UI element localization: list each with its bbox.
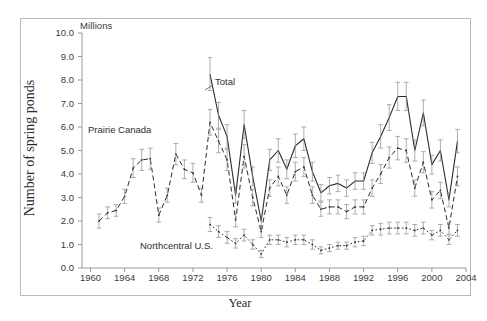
data-point	[141, 159, 143, 161]
data-point	[448, 239, 450, 241]
data-point	[388, 227, 390, 229]
data-point	[397, 227, 399, 229]
data-point	[363, 206, 365, 208]
data-point	[431, 234, 433, 236]
data-point	[388, 157, 390, 159]
data-point	[209, 121, 211, 123]
data-point	[235, 242, 237, 244]
data-point	[192, 172, 194, 174]
data-point	[243, 155, 245, 157]
data-point	[166, 194, 168, 196]
series-label-total: Total	[215, 76, 235, 87]
series-label-prairie-canada: Prairie Canada	[88, 124, 151, 135]
data-point	[337, 206, 339, 208]
data-point	[149, 158, 151, 160]
data-point	[457, 230, 459, 232]
data-point	[371, 187, 373, 189]
data-point	[115, 210, 117, 212]
data-point	[431, 199, 433, 201]
data-point	[320, 249, 322, 251]
data-point	[277, 239, 279, 241]
data-point	[201, 194, 203, 196]
data-point	[303, 166, 305, 168]
figure-container: Millions Number of spring ponds Year 0.0…	[0, 0, 487, 321]
series-total	[208, 58, 460, 228]
data-point	[252, 197, 254, 199]
data-point	[346, 211, 348, 213]
data-point	[184, 168, 186, 170]
data-point	[98, 220, 100, 222]
data-point	[329, 206, 331, 208]
data-point	[158, 214, 160, 216]
data-point	[175, 153, 177, 155]
data-point	[132, 167, 134, 169]
data-point	[226, 237, 228, 239]
data-point	[107, 212, 109, 214]
data-point	[440, 190, 442, 192]
data-point	[457, 175, 459, 177]
data-point	[414, 230, 416, 232]
data-point	[422, 161, 424, 163]
data-point	[354, 206, 356, 208]
data-point	[371, 230, 373, 232]
series-line	[210, 74, 457, 221]
data-point	[235, 219, 237, 221]
data-point	[260, 231, 262, 233]
data-point	[294, 171, 296, 173]
data-point	[320, 208, 322, 210]
data-point	[363, 240, 365, 242]
data-point	[346, 245, 348, 247]
data-point	[312, 244, 314, 246]
data-point	[286, 241, 288, 243]
data-point	[218, 231, 220, 233]
series-label-northcentral-us: Northcentral U.S.	[140, 240, 213, 251]
data-point	[269, 239, 271, 241]
data-point	[294, 239, 296, 241]
data-point	[124, 195, 126, 197]
series-line	[210, 225, 457, 254]
data-point	[354, 241, 356, 243]
data-point	[380, 228, 382, 230]
data-point	[218, 140, 220, 142]
data-point	[252, 244, 254, 246]
data-point	[414, 187, 416, 189]
chart-plot-area	[0, 0, 487, 321]
data-point	[422, 227, 424, 229]
data-point	[269, 187, 271, 189]
data-point	[226, 159, 228, 161]
data-point	[243, 234, 245, 236]
data-point	[286, 194, 288, 196]
data-point	[440, 230, 442, 232]
data-point	[260, 253, 262, 255]
data-point	[209, 224, 211, 226]
data-point	[329, 247, 331, 249]
data-point	[312, 194, 314, 196]
data-point	[303, 239, 305, 241]
total-leader-line	[205, 85, 213, 90]
data-point	[277, 175, 279, 177]
data-point	[448, 227, 450, 229]
series-northcentral-u-s	[208, 217, 460, 257]
data-point	[405, 150, 407, 152]
data-point	[405, 227, 407, 229]
data-point	[380, 173, 382, 175]
data-point	[397, 147, 399, 149]
data-point	[337, 245, 339, 247]
